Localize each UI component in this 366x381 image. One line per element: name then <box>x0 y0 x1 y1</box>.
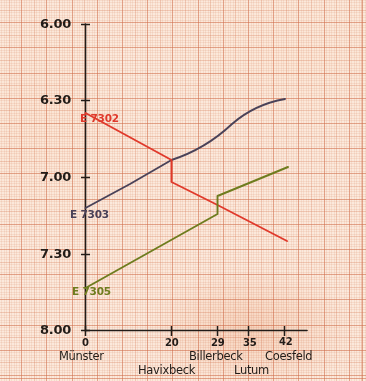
series-label-e7303: E 7303 <box>70 208 109 220</box>
x-tick-num-0: 0 <box>82 337 89 348</box>
y-tick-label-630: 6.30 <box>40 92 71 107</box>
y-tick-label-730: 7.30 <box>40 246 71 261</box>
y-tick-label-700: 7.00 <box>40 169 71 184</box>
chart-page: 6.00 6.30 7.00 7.30 8.00 0 20 29 35 42 M… <box>0 0 366 381</box>
x-tick-num-20: 20 <box>165 337 178 348</box>
station-label-munster: Münster <box>59 349 104 363</box>
x-tick-num-35: 35 <box>243 337 256 348</box>
series-label-e7302: E 7302 <box>80 112 119 124</box>
series-line-e7302 <box>86 113 288 241</box>
station-label-billerbeck: Billerbeck <box>189 349 243 363</box>
station-label-lutum: Lutum <box>234 363 269 377</box>
x-tick-num-29: 29 <box>211 337 224 348</box>
y-tick-label-800: 8.00 <box>40 322 71 337</box>
station-label-coesfeld: Coesfeld <box>265 349 312 363</box>
station-label-havixbeck: Havixbeck <box>138 363 195 377</box>
series-line-e7305 <box>86 167 289 288</box>
x-tick-num-42: 42 <box>279 336 292 347</box>
series-label-e7305: E 7305 <box>72 285 111 297</box>
y-tick-label-600: 6.00 <box>40 16 71 31</box>
